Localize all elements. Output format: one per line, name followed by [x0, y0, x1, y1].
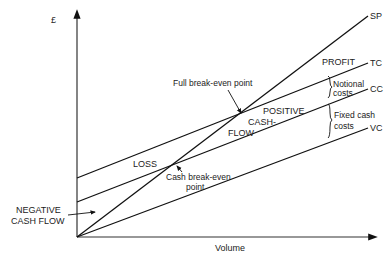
fixed-cash-costs-label-1: Fixed cash [334, 110, 375, 120]
sp-label: SP [370, 11, 382, 21]
profit-label: PROFIT [322, 57, 356, 67]
cc-label: CC [370, 84, 383, 94]
full-break-even-arrow [228, 90, 241, 113]
negative-cash-flow-arrow [68, 212, 95, 215]
full-break-even-label: Full break-even point [173, 78, 253, 88]
positive-cash-flow-label-3: FLOW [228, 128, 255, 138]
fixed-cash-costs-label-2: costs [334, 121, 354, 131]
negative-cash-flow-label-1: NEGATIVE [16, 205, 61, 215]
lines [77, 16, 368, 237]
fixed-cash-costs-brace [328, 104, 332, 138]
negative-cash-flow-label-2: CASH FLOW [11, 216, 65, 226]
cash-break-even-label-2: point [186, 182, 205, 192]
vc-label: VC [370, 123, 383, 133]
loss-label: LOSS [133, 159, 157, 169]
cc-line [77, 89, 368, 202]
sp-line [77, 16, 368, 237]
notional-costs-label-2: costs [333, 88, 353, 98]
cash-break-even-label-1: Cash break-even [166, 172, 231, 182]
positive-cash-flow-label-1: POSITIVE [263, 106, 305, 116]
x-axis-label: Volume [215, 243, 245, 253]
break-even-diagram: £ Volume SP TC CC VC PROFIT LOSS POSITIV… [0, 0, 392, 258]
tc-label: TC [370, 58, 382, 68]
positive-cash-flow-label-2: CASH- [248, 117, 276, 127]
notional-costs-brace [328, 76, 332, 98]
y-axis-label: £ [51, 15, 56, 25]
vc-line [77, 128, 368, 237]
